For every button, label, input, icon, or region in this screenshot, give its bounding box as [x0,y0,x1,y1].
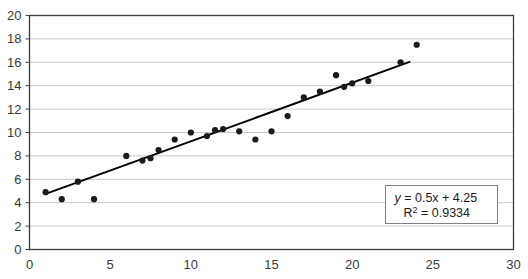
data-point [285,113,291,119]
x-tick-label: 5 [107,257,114,272]
data-point [414,42,420,48]
data-point [341,84,347,90]
y-tick-label: 12 [7,102,21,117]
x-tick-label: 30 [506,257,520,272]
y-tick-label: 4 [14,195,21,210]
data-point [220,126,226,132]
data-point [43,189,49,195]
data-points [43,42,420,203]
data-point [188,129,194,135]
regression-equation-text: y = 0.5x + 4.25 [394,191,478,205]
data-point [155,147,161,153]
data-point [236,128,242,134]
data-point [139,157,145,163]
x-tick-label: 25 [426,257,440,272]
data-point [301,94,307,100]
trendline [46,62,411,194]
data-point [172,136,178,142]
x-axis-tick-labels: 051015202530 [26,257,521,272]
y-tick-label: 20 [7,8,21,23]
y-axis-tick-labels: 02468101214161820 [7,8,29,257]
data-point [123,153,129,159]
equation-annotation-box: y = 0.5x + 4.25R2 = 0.9334 [386,186,498,224]
data-point [268,128,274,134]
data-point [75,179,81,185]
chart-canvas: 051015202530 02468101214161820 y = 0.5x … [0,0,528,279]
data-point [397,59,403,65]
y-tick-label: 18 [7,31,21,46]
y-tick-label: 6 [14,172,21,187]
data-point [147,155,153,161]
x-tick-label: 20 [345,257,359,272]
data-point [212,127,218,133]
trendline-segment [46,62,411,194]
y-tick-label: 8 [14,148,21,163]
y-tick-label: 2 [14,219,21,234]
data-point [91,196,97,202]
data-point [59,196,65,202]
data-point [204,133,210,139]
y-tick-label: 10 [7,125,21,140]
y-tick-label: 0 [14,242,21,257]
data-point [365,78,371,84]
x-tick-label: 0 [26,257,33,272]
scatter-chart: 051015202530 02468101214161820 y = 0.5x … [0,0,528,279]
x-tick-label: 15 [264,257,278,272]
data-point [252,136,258,142]
data-point [333,72,339,78]
data-point [349,80,355,86]
data-point [317,88,323,94]
x-tick-label: 10 [184,257,198,272]
y-tick-label: 14 [7,78,21,93]
y-tick-label: 16 [7,55,21,70]
